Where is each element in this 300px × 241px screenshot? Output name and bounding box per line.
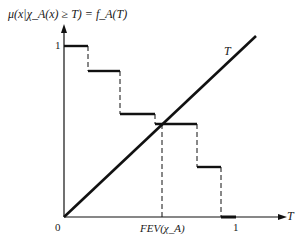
x-axis-arrow-icon [278,214,287,220]
y-tick-1: 1 [55,39,61,51]
x-tick-1: 1 [233,221,239,233]
diagonal-label: T [224,44,231,59]
x-axis-label: T [287,209,294,224]
y-axis-arrow-icon [61,24,67,33]
x-tick-0: 0 [55,221,61,233]
x-tick-fev: FEV(χ_A) [140,222,185,234]
axes [61,24,287,220]
fev-diagram [0,0,300,241]
y-axis-title: μ(x|χ_A(x) ≥ T) = f_A(T) [8,7,127,22]
diagonal-t-line [64,36,256,217]
